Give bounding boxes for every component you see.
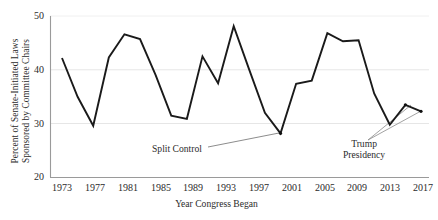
annotation-trump-presidency: Trump Presidency [343, 138, 385, 160]
annotation-split-control: Split Control [152, 143, 202, 154]
annotation-trump-line1: Trump [343, 138, 385, 149]
x-axis-title: Year Congress Began [0, 198, 433, 209]
annotation-trump-line2: Presidency [343, 149, 385, 160]
x-tick-2017: 2017 [403, 183, 438, 193]
